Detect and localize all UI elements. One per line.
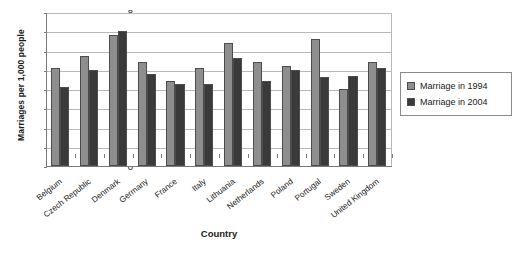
bar: [368, 62, 377, 166]
legend-item: Marriage in 1994: [407, 78, 511, 94]
figure-caption: [18, 255, 318, 263]
bar: [138, 62, 147, 166]
y-tick-mark: [44, 90, 47, 91]
y-tick-mark: [44, 71, 47, 72]
bar: [118, 31, 127, 166]
bar: [60, 87, 69, 166]
legend-swatch-icon: [407, 82, 415, 90]
bar: [311, 39, 320, 166]
x-tick-mark: [363, 154, 364, 158]
bar: [80, 56, 89, 166]
y-tick-mark: [44, 52, 47, 53]
bar: [89, 70, 98, 166]
bar: [253, 62, 262, 166]
x-tick-mark: [161, 154, 162, 158]
bar-group: [335, 13, 364, 166]
bar: [147, 74, 156, 166]
y-tick-mark: [44, 148, 47, 149]
y-tick-mark: [44, 13, 47, 14]
bar: [195, 68, 204, 166]
bar: [224, 43, 233, 166]
x-tick-mark: [248, 154, 249, 158]
bar: [262, 81, 271, 166]
legend: Marriage in 1994 Marriage in 2004: [400, 72, 512, 116]
bar: [291, 70, 300, 166]
x-tick-mark: [392, 154, 393, 158]
plot-area: [46, 13, 392, 167]
bar-group: [105, 13, 134, 166]
bar: [109, 35, 118, 166]
x-tick-mark: [104, 154, 105, 158]
bar-group: [364, 13, 393, 166]
bar-group: [220, 13, 249, 166]
bar: [166, 81, 175, 166]
bar: [233, 58, 242, 166]
y-tick-mark: [44, 129, 47, 130]
bar-group: [191, 13, 220, 166]
x-tick-mark: [190, 154, 191, 158]
bar: [339, 89, 348, 166]
x-tick-mark: [334, 154, 335, 158]
bar: [175, 84, 184, 166]
bar-group: [307, 13, 336, 166]
x-tick-mark: [306, 154, 307, 158]
bar-group: [76, 13, 105, 166]
bar: [377, 68, 386, 166]
legend-swatch-icon: [407, 98, 415, 106]
bar: [204, 84, 213, 166]
bar-group: [162, 13, 191, 166]
legend-item: Marriage in 2004: [407, 94, 511, 110]
bar-group: [134, 13, 163, 166]
legend-label: Marriage in 2004: [420, 97, 488, 107]
x-tick-mark: [277, 154, 278, 158]
bar: [320, 77, 329, 166]
bar: [348, 76, 357, 166]
bar: [282, 66, 291, 166]
y-axis-title: Marriages per 1,000 people: [14, 10, 28, 160]
bar: [51, 68, 60, 166]
bar-group: [249, 13, 278, 166]
chart-figure: Marriages per 1,000 people 012345678 Bel…: [0, 0, 525, 263]
x-tick-mark: [219, 154, 220, 158]
y-tick-mark: [44, 109, 47, 110]
y-tick-mark: [44, 167, 47, 168]
y-tick-mark: [44, 32, 47, 33]
x-tick-mark: [46, 154, 47, 158]
x-tick-mark: [75, 154, 76, 158]
legend-label: Marriage in 1994: [420, 81, 488, 91]
x-axis-title: Country: [46, 228, 392, 239]
x-tick-mark: [133, 154, 134, 158]
bar-group: [47, 13, 76, 166]
bar-group: [278, 13, 307, 166]
